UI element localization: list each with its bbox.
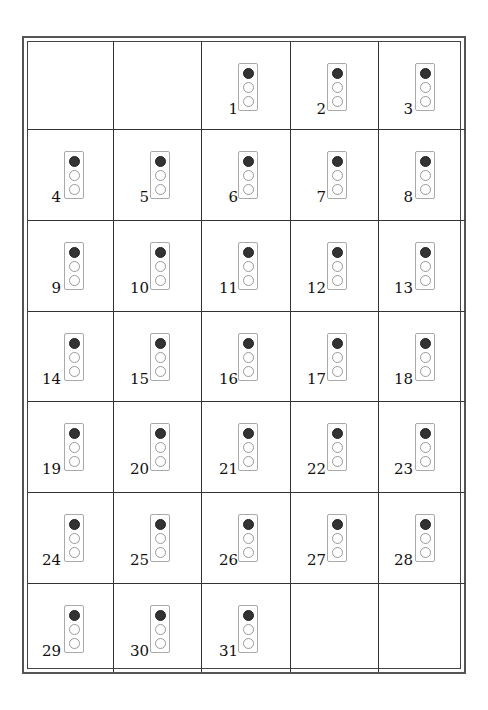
day-cell[interactable]: 15 bbox=[114, 312, 202, 402]
empty-cell bbox=[114, 42, 202, 130]
calendar-frame: 1234567891011121314151617181920212223242… bbox=[22, 36, 466, 674]
day-content: 4 bbox=[28, 130, 113, 220]
day-cell[interactable]: 12 bbox=[291, 221, 379, 312]
day-cell[interactable]: 14 bbox=[28, 312, 114, 402]
traffic-light-icon bbox=[327, 242, 347, 290]
day-cell[interactable]: 28 bbox=[379, 493, 465, 584]
day-cell[interactable]: 22 bbox=[291, 402, 379, 493]
yellow-bulb-icon bbox=[332, 82, 343, 93]
day-cell[interactable]: 24 bbox=[28, 493, 114, 584]
day-number: 23 bbox=[394, 462, 413, 477]
day-cell[interactable]: 5 bbox=[114, 130, 202, 221]
red-bulb-icon bbox=[420, 428, 431, 439]
day-number: 12 bbox=[307, 281, 326, 296]
yellow-bulb-icon bbox=[243, 442, 254, 453]
traffic-light-icon bbox=[64, 423, 84, 471]
day-cell[interactable]: 26 bbox=[202, 493, 291, 584]
day-cell[interactable]: 20 bbox=[114, 402, 202, 493]
yellow-bulb-icon bbox=[155, 533, 166, 544]
green-bulb-icon bbox=[155, 638, 166, 649]
traffic-light-icon bbox=[238, 242, 258, 290]
day-cell[interactable]: 17 bbox=[291, 312, 379, 402]
red-bulb-icon bbox=[420, 68, 431, 79]
day-number: 10 bbox=[130, 281, 149, 296]
red-bulb-icon bbox=[243, 428, 254, 439]
green-bulb-icon bbox=[332, 275, 343, 286]
red-bulb-icon bbox=[155, 428, 166, 439]
day-cell[interactable]: 8 bbox=[379, 130, 465, 221]
day-content: 22 bbox=[291, 402, 378, 492]
day-cell[interactable]: 16 bbox=[202, 312, 291, 402]
green-bulb-icon bbox=[69, 638, 80, 649]
day-cell[interactable]: 2 bbox=[291, 42, 379, 130]
day-cell[interactable]: 13 bbox=[379, 221, 465, 312]
yellow-bulb-icon bbox=[155, 442, 166, 453]
red-bulb-icon bbox=[243, 68, 254, 79]
yellow-bulb-icon bbox=[332, 533, 343, 544]
green-bulb-icon bbox=[243, 184, 254, 195]
red-bulb-icon bbox=[69, 338, 80, 349]
day-cell[interactable]: 9 bbox=[28, 221, 114, 312]
red-bulb-icon bbox=[69, 156, 80, 167]
day-cell[interactable]: 30 bbox=[114, 584, 202, 672]
green-bulb-icon bbox=[155, 547, 166, 558]
green-bulb-icon bbox=[332, 456, 343, 467]
day-cell[interactable]: 23 bbox=[379, 402, 465, 493]
day-content: 9 bbox=[28, 221, 113, 311]
red-bulb-icon bbox=[155, 610, 166, 621]
yellow-bulb-icon bbox=[243, 261, 254, 272]
red-bulb-icon bbox=[69, 247, 80, 258]
day-cell[interactable]: 7 bbox=[291, 130, 379, 221]
green-bulb-icon bbox=[420, 366, 431, 377]
day-content: 3 bbox=[379, 42, 465, 129]
green-bulb-icon bbox=[155, 366, 166, 377]
traffic-light-icon bbox=[327, 423, 347, 471]
day-cell[interactable]: 19 bbox=[28, 402, 114, 493]
green-bulb-icon bbox=[243, 547, 254, 558]
day-number: 5 bbox=[139, 190, 149, 205]
traffic-light-icon bbox=[64, 514, 84, 562]
day-number: 30 bbox=[130, 644, 149, 659]
day-number: 16 bbox=[219, 372, 238, 387]
yellow-bulb-icon bbox=[155, 352, 166, 363]
day-content: 13 bbox=[379, 221, 465, 311]
traffic-light-icon bbox=[415, 63, 435, 111]
day-content: 26 bbox=[202, 493, 290, 583]
day-cell[interactable]: 21 bbox=[202, 402, 291, 493]
day-content: 17 bbox=[291, 312, 378, 401]
day-cell[interactable]: 11 bbox=[202, 221, 291, 312]
red-bulb-icon bbox=[69, 428, 80, 439]
yellow-bulb-icon bbox=[420, 442, 431, 453]
traffic-light-icon bbox=[150, 605, 170, 653]
day-number: 1 bbox=[228, 102, 238, 117]
day-cell[interactable]: 4 bbox=[28, 130, 114, 221]
yellow-bulb-icon bbox=[243, 533, 254, 544]
day-content: 5 bbox=[114, 130, 201, 220]
red-bulb-icon bbox=[332, 68, 343, 79]
traffic-light-icon bbox=[238, 333, 258, 381]
traffic-light-icon bbox=[327, 514, 347, 562]
day-cell[interactable]: 31 bbox=[202, 584, 291, 672]
traffic-light-icon bbox=[64, 242, 84, 290]
day-cell[interactable]: 18 bbox=[379, 312, 465, 402]
red-bulb-icon bbox=[155, 338, 166, 349]
traffic-light-icon bbox=[327, 151, 347, 199]
day-cell[interactable]: 3 bbox=[379, 42, 465, 130]
day-content: 20 bbox=[114, 402, 201, 492]
day-number: 25 bbox=[130, 553, 149, 568]
yellow-bulb-icon bbox=[332, 352, 343, 363]
day-cell[interactable]: 6 bbox=[202, 130, 291, 221]
traffic-light-icon bbox=[150, 514, 170, 562]
day-cell[interactable]: 29 bbox=[28, 584, 114, 672]
traffic-light-icon bbox=[150, 151, 170, 199]
day-content: 18 bbox=[379, 312, 465, 401]
day-content: 2 bbox=[291, 42, 378, 129]
day-cell[interactable]: 27 bbox=[291, 493, 379, 584]
day-number: 18 bbox=[394, 372, 413, 387]
day-cell[interactable]: 25 bbox=[114, 493, 202, 584]
day-content: 25 bbox=[114, 493, 201, 583]
day-cell[interactable]: 1 bbox=[202, 42, 291, 130]
day-content: 27 bbox=[291, 493, 378, 583]
red-bulb-icon bbox=[332, 338, 343, 349]
day-cell[interactable]: 10 bbox=[114, 221, 202, 312]
